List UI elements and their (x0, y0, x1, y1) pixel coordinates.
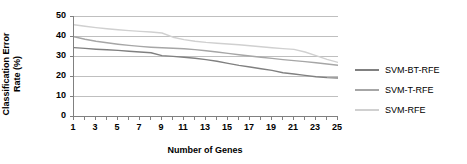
x-axis-tick-mark (205, 117, 206, 120)
x-axis-tick-mark (249, 117, 250, 120)
x-axis-tick-mark (106, 117, 107, 120)
legend-item-svm-t-rfe[interactable]: SVM-T-RFE (355, 80, 467, 100)
x-axis-tick-mark (260, 117, 261, 120)
x-axis-tick-mark (337, 117, 338, 120)
chart-figure: Classification Error Rate (%) 0102030405… (0, 0, 467, 164)
x-axis-tick-label: 25 (327, 122, 347, 132)
x-axis-tick-mark (128, 117, 129, 120)
x-axis-tick-mark (282, 117, 283, 120)
legend-item-svm-bt-rfe[interactable]: SVM-BT-RFE (355, 60, 467, 80)
x-axis-tick-mark (172, 117, 173, 120)
x-axis-tick-label: 21 (283, 122, 303, 132)
x-axis-tick-mark (183, 117, 184, 120)
x-axis-tick-mark (238, 117, 239, 120)
legend-item-label: SVM-RFE (385, 105, 426, 115)
x-axis-tick-label: 3 (85, 122, 105, 132)
x-axis-tick-mark (73, 117, 74, 120)
y-axis-title-line-1: Classification Error (1, 19, 12, 129)
x-axis-tick-label: 23 (305, 122, 325, 132)
x-axis-tick-label: 15 (217, 122, 237, 132)
x-axis-tick-mark (150, 117, 151, 120)
y-axis-tick-label: 20 (40, 71, 66, 80)
legend-line-swatch (355, 109, 379, 111)
x-axis-tick-mark (139, 117, 140, 120)
x-axis-title: Number of Genes (73, 145, 337, 155)
legend-line-swatch (355, 89, 379, 91)
series-lines (74, 16, 338, 116)
x-axis-tick-mark (315, 117, 316, 120)
series-line-svm-bt-rfe (74, 48, 338, 78)
x-axis-tick-mark (227, 117, 228, 120)
x-axis-tick-label: 9 (151, 122, 171, 132)
y-axis-title: Classification Error Rate (%) (1, 19, 37, 129)
x-axis-tick-label: 5 (107, 122, 127, 132)
x-axis-tick-label: 19 (261, 122, 281, 132)
x-axis-tick-label: 11 (173, 122, 193, 132)
legend-item-label: SVM-BT-RFE (385, 65, 440, 75)
x-axis-tick-mark (194, 117, 195, 120)
x-axis-tick-label: 17 (239, 122, 259, 132)
legend-item-label: SVM-T-RFE (385, 85, 434, 95)
x-axis-tick-label: 1 (63, 122, 83, 132)
legend-line-swatch (355, 69, 379, 71)
x-axis-tick-mark (216, 117, 217, 120)
x-axis-tick-mark (84, 117, 85, 120)
x-axis-tick-mark (293, 117, 294, 120)
plot-area (73, 16, 338, 117)
x-axis-tick-mark (117, 117, 118, 120)
x-axis-tick-mark (271, 117, 272, 120)
y-axis-tick-label: 0 (40, 111, 66, 120)
y-axis-title-line-2: Rate (%) (12, 19, 23, 129)
y-axis-tick-label: 10 (40, 91, 66, 100)
x-axis-tick-mark (304, 117, 305, 120)
y-axis-tick-label: 50 (40, 11, 66, 20)
x-axis-tick-mark (326, 117, 327, 120)
x-axis-tick-mark (95, 117, 96, 120)
y-axis-tick-label: 30 (40, 51, 66, 60)
chart-legend: SVM-BT-RFESVM-T-RFESVM-RFE (355, 60, 467, 120)
x-axis-tick-label: 7 (129, 122, 149, 132)
x-axis-tick-mark (161, 117, 162, 120)
x-axis-tick-label: 13 (195, 122, 215, 132)
y-axis-tick-label: 40 (40, 31, 66, 40)
legend-item-svm-rfe[interactable]: SVM-RFE (355, 100, 467, 120)
